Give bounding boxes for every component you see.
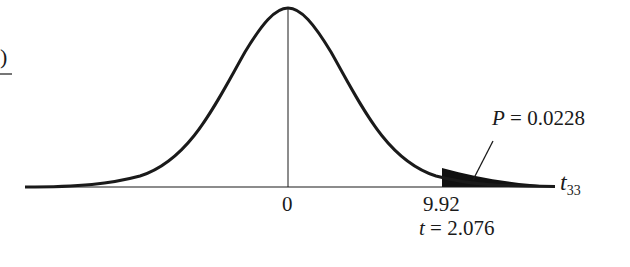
panel-label: ) <box>0 46 7 68</box>
p-symbol: P <box>492 106 505 130</box>
p-value-leader-line <box>473 141 493 180</box>
axis-df-subscript: 33 <box>567 183 581 198</box>
t-statistic-label: t = 2.076 <box>419 218 494 239</box>
observed-value-label: 9.92 <box>423 194 460 215</box>
center-tick-label: 0 <box>282 194 293 215</box>
density-curve <box>25 8 555 187</box>
p-value-label: P = 0.0228 <box>492 108 585 129</box>
t-symbol: t <box>419 216 425 240</box>
p-value: = 0.0228 <box>510 106 585 130</box>
axis-label: t33 <box>560 170 581 198</box>
axis-symbol: t <box>560 169 567 195</box>
t-statistic-value: = 2.076 <box>430 216 494 240</box>
t-distribution-plot <box>0 0 630 267</box>
